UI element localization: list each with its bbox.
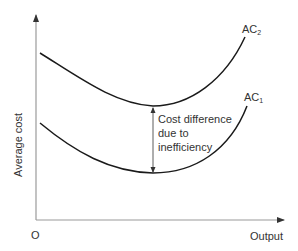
annotation-line-3: inefficiency (158, 141, 213, 153)
annotation-line-1: Cost difference (158, 113, 232, 125)
chart-canvas: Average cost Output O AC2 AC1 Cost diffe… (0, 0, 298, 251)
ac2-curve (40, 37, 245, 106)
ac1-label-sub: 1 (259, 97, 263, 104)
origin-label: O (31, 229, 40, 241)
x-axis-label: Output (250, 230, 283, 242)
annotation-line-2: due to (158, 127, 189, 139)
ac2-label: AC2 (242, 23, 261, 36)
ac1-label-main: AC (244, 91, 259, 103)
ac2-label-sub: 2 (257, 29, 261, 36)
ac1-label: AC1 (244, 91, 263, 104)
y-axis-label: Average cost (12, 113, 24, 177)
ac2-label-main: AC (242, 23, 257, 35)
